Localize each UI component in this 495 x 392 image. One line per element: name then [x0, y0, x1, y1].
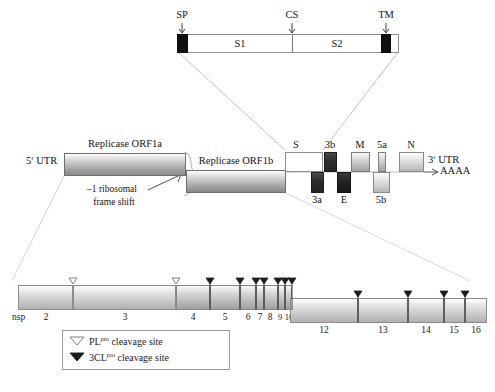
legend-plpro-sup: pro [101, 335, 109, 342]
nsp-label-12: 12 [319, 326, 329, 336]
gene-label-e: E [341, 195, 347, 206]
nsp-label-8: 8 [268, 313, 273, 323]
spike-divider-cs [292, 34, 293, 53]
nsp-box-13 [358, 298, 408, 323]
nsp-label-2: 2 [44, 313, 49, 323]
gene-label-m: M [355, 140, 364, 151]
gene-box-e [337, 172, 351, 193]
nsp-label-7: 7 [258, 313, 263, 323]
nsp-box-6 [240, 285, 256, 310]
gene-box-5a [378, 152, 386, 172]
gene-box-s [285, 152, 323, 172]
legend-plpro-tail: cleavage site [111, 336, 162, 347]
polya-label: AAAA [440, 166, 470, 177]
nsp-box-5 [210, 285, 240, 310]
nsp-label-3: 3 [123, 313, 128, 323]
nsp-box-7 [256, 285, 264, 310]
nsp-label-5: 5 [223, 313, 228, 323]
nsp-box-3 [73, 285, 176, 310]
gene-label-3b: 3b [325, 140, 336, 151]
spike-marker-label-cs: CS [286, 10, 299, 21]
gene-box-m [351, 152, 370, 172]
spike-bar-outline [177, 34, 399, 53]
spike-segment-tm [381, 34, 391, 53]
legend-row-plpro: PLpro cleavage site [89, 336, 163, 347]
three-prime-utr-label: 3ʹ UTR [428, 155, 459, 166]
frameshift-label-line2: frame shift [93, 198, 134, 208]
nsp-box-9 [278, 285, 285, 310]
nsp-label-4: 4 [191, 313, 196, 323]
frameshift-label-line1: –1 ribosomal [87, 185, 137, 195]
legend-clpro-sup: pro [107, 351, 115, 358]
nsp-box-14 [408, 298, 444, 323]
nsp-box-15 [444, 298, 465, 323]
gene-box-n [399, 152, 424, 172]
nsp-label-16: 16 [471, 326, 481, 336]
gene-box-3a [311, 172, 324, 193]
gene-label-5a: 5a [377, 140, 387, 151]
orf1b-bar [186, 170, 286, 193]
nsp-label-15: 15 [449, 326, 459, 336]
plpro-marker-group [69, 278, 180, 284]
orf1a-bar [64, 153, 186, 176]
nsp-box-16 [465, 298, 487, 323]
orf1a-label: Replicase ORF1a [88, 139, 162, 150]
legend-clpro-name: 3CL [89, 352, 107, 363]
gene-box-3b [324, 152, 337, 172]
nsp-box-8 [264, 285, 278, 310]
spike-marker-label-tm: TM [378, 10, 394, 21]
nsp-prefix-label: nsp [12, 313, 25, 323]
spike-marker-label-sp: SP [176, 10, 188, 21]
spike-segment-label-s1: S1 [234, 39, 245, 50]
nsp-box-2 [18, 285, 73, 310]
nsp-label-9: 9 [278, 313, 282, 322]
gene-label-n: N [407, 140, 415, 151]
spike-segment-sp [177, 34, 188, 53]
gene-label-s: S [293, 140, 299, 151]
gene-box-5b [373, 172, 390, 193]
nsp-box-12 [290, 298, 358, 323]
legend-row-clpro: 3CLpro cleavage site [89, 352, 169, 363]
five-prime-utr-label: 5ʹ UTR [26, 156, 57, 167]
nsp-label-13: 13 [378, 326, 388, 336]
spike-segment-label-s2: S2 [331, 39, 342, 50]
gene-label-3a: 3a [312, 195, 322, 206]
legend-clpro-tail: cleavage site [118, 352, 169, 363]
nsp-label-6: 6 [246, 313, 251, 323]
nsp-box-4 [176, 285, 210, 310]
orf1b-label: Replicase ORF1b [199, 156, 273, 167]
legend-plpro-name: PL [89, 336, 101, 347]
nsp-label-14: 14 [421, 326, 431, 336]
figure-canvas: SP CS TM S1 S2 5ʹ UTR Replicase ORF1a Re… [0, 0, 495, 392]
gene-label-5b: 5b [376, 195, 387, 206]
